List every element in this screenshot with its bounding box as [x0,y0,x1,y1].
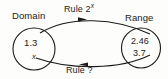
rule-top-label: Rule 2x [64,5,94,14]
rule-top-exponent: x [91,2,94,9]
domain-value: 1.3 [24,38,38,48]
domain-circle [13,28,55,70]
range-value-secondary: 3.7 [133,49,146,58]
domain-label: Domain [12,11,45,21]
rule-top-text: Rule 2 [64,4,91,14]
range-value-primary: 2.46 [131,37,149,46]
function-mapping-diagram: Domain Range Rule 2x Rule ? 1.3 x 2.46 3… [0,0,168,79]
range-label: Range [125,13,154,23]
rule-bottom-label: Rule ? [66,66,93,75]
domain-variable: x [32,53,36,61]
